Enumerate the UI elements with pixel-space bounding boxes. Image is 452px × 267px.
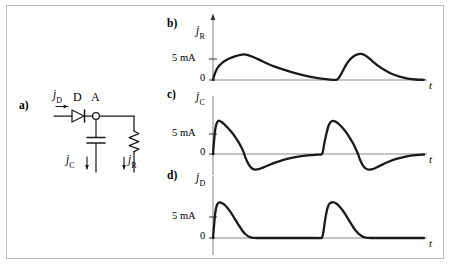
capacitor-current-label: jC (66, 153, 75, 168)
diode-symbol (72, 110, 85, 122)
plot-b-y-axis-label: jR (196, 24, 205, 39)
plot-c-x-axis-label: t (429, 153, 432, 165)
panel-letter-c: c) (167, 88, 176, 100)
plot-d-curve (213, 202, 424, 238)
resistor-symbol (129, 131, 139, 152)
plot-b-curve (213, 54, 424, 80)
plot-d-y-axis-label: jD (196, 171, 205, 186)
panel-letter-d: d) (167, 169, 177, 181)
figure-root: a) b) c) d) jD D A jC jR jR 5 mA 0 t jC … (0, 0, 452, 267)
plot-c-curve (213, 121, 424, 170)
plot-b-y-axis (211, 14, 216, 81)
panel-letter-a: a) (19, 99, 29, 111)
diode-letter-label: D (73, 90, 82, 105)
node-a-terminal (93, 113, 100, 120)
plot-b-ytick-label-5ma: 5 mA (172, 52, 196, 63)
resistor-current-label: jR (128, 153, 137, 168)
plot-jr (209, 14, 427, 81)
figure-vector-layer (0, 0, 452, 267)
capacitor-current-arrow (85, 157, 89, 170)
plot-c-ytick-label-5ma: 5 mA (172, 127, 196, 138)
plot-d-ytick-label-5ma: 5 mA (172, 210, 196, 221)
capacitor-symbol (87, 138, 105, 144)
input-current-arrow (56, 105, 68, 109)
plot-b-ytick-label-0: 0 (200, 72, 205, 83)
plot-jd (209, 176, 427, 255)
plot-b-x-axis-label: t (429, 79, 432, 91)
plot-jc (209, 96, 427, 175)
plot-d-ytick-label-0: 0 (200, 230, 205, 241)
plot-d-x-axis-label: t (429, 237, 432, 249)
plot-c-ytick-label-0: 0 (200, 146, 205, 157)
plot-c-y-axis-label: jC (196, 90, 205, 105)
input-current-label: jD (53, 88, 62, 103)
resistor-current-arrow (122, 157, 126, 170)
panel-letter-b: b) (167, 17, 177, 29)
plot-b-y-axis-arrow (211, 14, 216, 21)
node-a-label: A (91, 90, 100, 105)
